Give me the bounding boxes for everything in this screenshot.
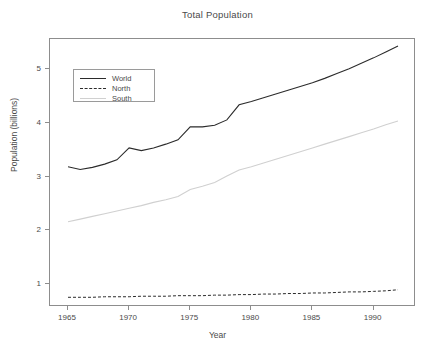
y-tick-mark bbox=[45, 229, 49, 230]
series-line-south bbox=[68, 121, 398, 222]
legend-swatch-south bbox=[80, 98, 106, 99]
x-tick-label: 1990 bbox=[364, 313, 382, 322]
y-tick-label: 4 bbox=[17, 117, 41, 126]
legend-swatch-north bbox=[80, 88, 106, 89]
chart-title: Total Population bbox=[0, 9, 435, 20]
legend-entry-south: South bbox=[74, 93, 156, 104]
x-tick-mark bbox=[373, 306, 374, 310]
x-tick-mark bbox=[250, 306, 251, 310]
x-tick-label: 1975 bbox=[180, 313, 198, 322]
chart-legend: World North South bbox=[73, 69, 155, 102]
y-tick-mark bbox=[45, 122, 49, 123]
y-tick-label: 3 bbox=[17, 171, 41, 180]
x-tick-label: 1970 bbox=[119, 313, 137, 322]
chart-figure: Total Population Population (billions) Y… bbox=[0, 0, 435, 355]
y-tick-mark bbox=[45, 283, 49, 284]
x-tick-mark bbox=[128, 306, 129, 310]
x-tick-label: 1980 bbox=[241, 313, 259, 322]
x-tick-mark bbox=[189, 306, 190, 310]
y-tick-mark bbox=[45, 176, 49, 177]
x-tick-mark bbox=[311, 306, 312, 310]
y-tick-label: 2 bbox=[17, 225, 41, 234]
legend-label-south: South bbox=[112, 93, 132, 104]
x-axis-title: Year bbox=[0, 330, 435, 340]
y-axis-title: Population (billions) bbox=[9, 98, 19, 172]
x-tick-mark bbox=[67, 306, 68, 310]
x-tick-label: 1965 bbox=[58, 313, 76, 322]
x-tick-label: 1985 bbox=[302, 313, 320, 322]
y-tick-label: 1 bbox=[17, 279, 41, 288]
y-tick-label: 5 bbox=[17, 63, 41, 72]
legend-swatch-world bbox=[80, 78, 106, 79]
y-tick-mark bbox=[45, 68, 49, 69]
series-line-north bbox=[68, 290, 398, 298]
series-line-world bbox=[68, 46, 398, 169]
